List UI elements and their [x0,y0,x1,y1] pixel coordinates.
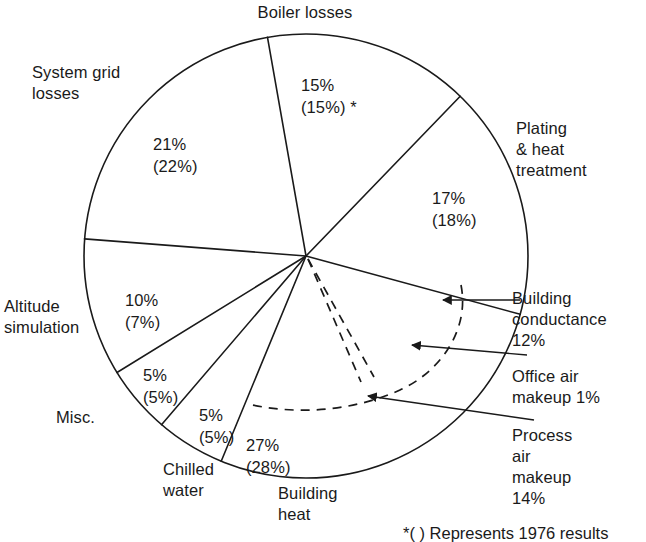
callout-office-air-makeup: Office air makeup 1% [512,366,646,408]
label-plating-heat-treatment: Plating & heat treatment [516,118,641,181]
label-building-heat: Building heat [278,483,378,525]
slice-divider-boiler-plating [306,96,460,256]
slice-divider-boiler-start [268,37,307,256]
label-system-grid-losses: System grid losses [32,62,182,104]
subdivision-line-conductance-office [308,259,374,377]
footnote-1976-results: *( ) Represents 1976 results [403,523,608,542]
subdivision-line-office-process [308,259,361,382]
label-altitude-simulation: Altitude simulation [4,296,124,338]
slice-divider-plating-buildingheat [306,256,520,314]
callout-building-conductance: Building conductance 12% [512,288,646,351]
value-misc: 5% (5%) [143,364,243,408]
value-building-heat: 27% (28%) [246,434,356,478]
label-misc: Misc. [56,407,136,428]
slice-divider-altitude-systemgrid [85,239,307,256]
leader-line-office-air-makeup [412,345,527,355]
value-plating-heat-treatment: 17% (18%) [432,187,542,231]
value-altitude-simulation: 10% (7%) [125,289,225,333]
leader-line-process-air-makeup [368,396,534,420]
callout-process-air-makeup: Process air makeup 14% [512,425,646,509]
subdivision-arc [248,285,463,410]
pie-chart-figure: Boiler losses System grid losses Plating… [0,0,646,542]
value-system-grid-losses: 21% (22%) [153,133,263,177]
label-boiler-losses: Boiler losses [205,2,405,23]
value-boiler-losses: 15% (15%) * [301,74,431,118]
label-chilled-water: Chilled water [163,459,253,501]
